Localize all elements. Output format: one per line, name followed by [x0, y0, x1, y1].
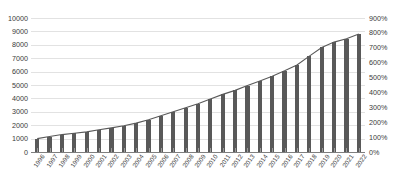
- x-tick-label: 2009: [193, 153, 207, 169]
- x-tick-label: 1999: [69, 153, 83, 169]
- x-tick-label: 2021: [341, 153, 355, 169]
- x-tick-label: 2007: [168, 153, 182, 169]
- x-tick-label: 2000: [82, 153, 96, 169]
- x-tick-label: 2013: [242, 153, 256, 169]
- y-tick-label-right: 100%: [369, 134, 400, 141]
- y-tick-label-right: 400%: [369, 89, 400, 96]
- x-tick-mark: [87, 148, 88, 152]
- y-tick-label-left: 9000: [0, 28, 28, 35]
- y-tick-label-left: 2000: [0, 122, 28, 129]
- y-tick-label-left: 1000: [0, 135, 28, 142]
- x-tick-mark: [149, 148, 150, 152]
- x-tick-mark: [247, 148, 248, 152]
- x-tick-mark: [161, 148, 162, 152]
- x-tick-label: 2001: [94, 153, 108, 169]
- x-tick-mark: [309, 148, 310, 152]
- x-tick-mark: [186, 148, 187, 152]
- y-tick-label-right: 800%: [369, 29, 400, 36]
- y-tick-label-left: 5000: [0, 82, 28, 89]
- x-tick-mark: [198, 148, 199, 152]
- x-tick-mark: [260, 148, 261, 152]
- x-tick-mark: [223, 148, 224, 152]
- x-tick-label: 1998: [57, 153, 71, 169]
- line-series: [31, 18, 365, 152]
- y-tick-label-right: 300%: [369, 104, 400, 111]
- x-tick-label: 2022: [354, 153, 368, 169]
- x-tick-mark: [124, 148, 125, 152]
- plot-area: [31, 18, 365, 152]
- y-tick-label-right: 600%: [369, 59, 400, 66]
- y-tick-label-left: 10000: [0, 15, 28, 22]
- chart-container: 0100020003000400050006000700080009000100…: [0, 0, 400, 184]
- x-tick-mark: [272, 148, 273, 152]
- x-tick-label: 2004: [131, 153, 145, 169]
- y-tick-label-right: 500%: [369, 74, 400, 81]
- x-tick-label: 1997: [44, 153, 58, 169]
- x-tick-label: 2010: [205, 153, 219, 169]
- x-tick-mark: [99, 148, 100, 152]
- y-tick-label-left: 3000: [0, 108, 28, 115]
- line-path: [37, 34, 359, 139]
- x-tick-mark: [285, 148, 286, 152]
- x-tick-mark: [334, 148, 335, 152]
- x-tick-mark: [210, 148, 211, 152]
- x-tick-label: 2019: [317, 153, 331, 169]
- y-tick-label-right: 200%: [369, 119, 400, 126]
- x-tick-mark: [111, 148, 112, 152]
- x-axis-labels: 1996199719981999200020012002200320042005…: [31, 153, 365, 184]
- x-tick-label: 2017: [292, 153, 306, 169]
- y-tick-label-left: 7000: [0, 55, 28, 62]
- x-tick-label: 2016: [279, 153, 293, 169]
- x-tick-mark: [37, 148, 38, 152]
- x-tick-label: 2015: [267, 153, 281, 169]
- x-tick-label: 2020: [329, 153, 343, 169]
- x-tick-mark: [346, 148, 347, 152]
- y-tick-label-left: 6000: [0, 68, 28, 75]
- x-tick-label: 2003: [119, 153, 133, 169]
- x-tick-mark: [50, 148, 51, 152]
- x-tick-label: 2011: [218, 153, 232, 168]
- x-tick-label: 2018: [304, 153, 318, 169]
- x-tick-label: 2006: [156, 153, 170, 169]
- y-tick-label-left: 4000: [0, 95, 28, 102]
- x-tick-label: 1996: [32, 153, 46, 169]
- x-tick-label: 2012: [230, 153, 244, 169]
- x-tick-label: 2008: [180, 153, 194, 169]
- x-tick-label: 2002: [106, 153, 120, 169]
- x-tick-mark: [62, 148, 63, 152]
- x-tick-mark: [235, 148, 236, 152]
- y-tick-label-left: 0: [0, 149, 28, 156]
- y-tick-label-right: 700%: [369, 44, 400, 51]
- x-tick-mark: [173, 148, 174, 152]
- x-tick-mark: [74, 148, 75, 152]
- x-tick-mark: [136, 148, 137, 152]
- x-tick-mark: [359, 148, 360, 152]
- x-tick-label: 2005: [143, 153, 157, 169]
- y-tick-label-left: 8000: [0, 41, 28, 48]
- y-tick-label-right: 900%: [369, 15, 400, 22]
- x-tick-mark: [322, 148, 323, 152]
- y-tick-label-right: 0%: [369, 149, 400, 156]
- x-tick-label: 2014: [255, 153, 269, 169]
- x-tick-mark: [297, 148, 298, 152]
